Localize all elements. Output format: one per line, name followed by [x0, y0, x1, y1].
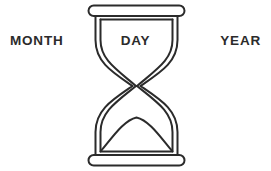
hourglass-top-cap — [89, 6, 185, 17]
hourglass-date-diagram: MONTH DAY YEAR — [0, 0, 271, 171]
label-year: YEAR — [220, 34, 261, 48]
hourglass-sand-mound — [101, 118, 172, 152]
hourglass-bottom-cap — [89, 155, 185, 166]
hourglass-icon — [0, 0, 271, 171]
